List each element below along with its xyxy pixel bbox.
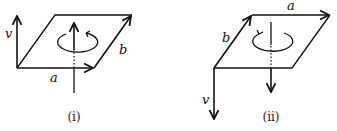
figure-i: v a b (i) [5,15,132,124]
vector-diagram: v a b (i) a b v (ii) [0,0,337,131]
label-a: a [287,0,295,13]
label-v: v [202,92,210,107]
caption-i: (i) [67,110,80,124]
parallelogram-edge [214,15,330,68]
label-v: v [5,26,13,41]
vector-b-arrow [214,16,251,68]
label-b: b [222,30,230,45]
label-b: b [119,42,127,57]
rotation-arrow-icon [253,33,293,51]
label-a: a [50,70,58,85]
rotation-arrowhead-icon [257,30,263,34]
figure-ii: a b v (ii) [202,0,330,124]
rotation-arrow-icon [58,33,98,52]
caption-ii: (ii) [262,110,279,124]
